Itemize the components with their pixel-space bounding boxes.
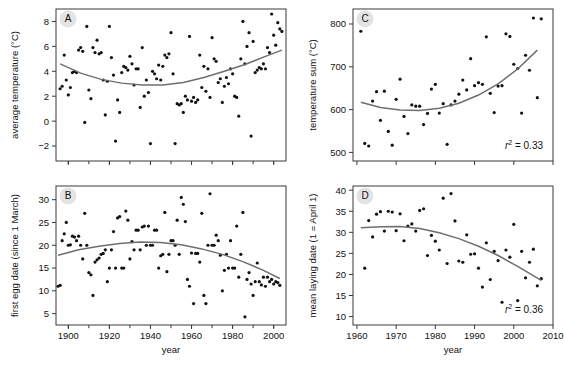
data-point xyxy=(91,46,94,49)
data-point xyxy=(200,212,203,215)
data-point xyxy=(184,95,187,98)
data-point xyxy=(180,102,183,105)
data-point xyxy=(161,65,164,68)
x-tick-label: 2000 xyxy=(263,330,284,341)
x-axis-title-b: year xyxy=(162,344,180,355)
data-point xyxy=(469,57,472,60)
data-point xyxy=(145,244,148,247)
data-point xyxy=(278,27,281,30)
data-point xyxy=(247,271,250,274)
data-point xyxy=(204,302,207,305)
data-point xyxy=(262,62,265,65)
data-point xyxy=(410,103,413,106)
data-point xyxy=(65,78,68,81)
panel-c: 500600700800Ctemperature sum (°C)r2 = 0.… xyxy=(307,9,553,165)
y-tick-label: 600 xyxy=(330,104,346,115)
data-point xyxy=(237,276,240,279)
data-point xyxy=(258,280,261,283)
figure-svg: −202468Aaverage temperature (°C)51015202… xyxy=(0,0,564,372)
data-point xyxy=(190,100,193,103)
data-point xyxy=(457,93,460,96)
data-point xyxy=(457,259,460,262)
data-point xyxy=(87,88,90,91)
data-point xyxy=(485,35,488,38)
data-point xyxy=(143,225,146,228)
data-point xyxy=(59,284,62,287)
y-tick-label: 15 xyxy=(38,262,49,273)
data-point xyxy=(418,209,421,212)
data-point xyxy=(233,266,236,269)
data-point xyxy=(85,244,88,247)
data-point xyxy=(169,31,172,34)
data-point xyxy=(126,219,129,222)
data-point xyxy=(130,62,133,65)
data-point xyxy=(402,115,405,118)
data-point xyxy=(221,289,224,292)
data-point xyxy=(171,239,174,242)
x-tick-label: 1990 xyxy=(464,330,485,341)
x-tick-label: 1940 xyxy=(140,330,161,341)
r2-value: = 0.33 xyxy=(512,140,543,151)
data-point xyxy=(108,266,111,269)
data-point xyxy=(254,71,257,74)
data-point xyxy=(243,315,246,318)
data-point xyxy=(153,72,156,75)
data-point xyxy=(359,30,362,33)
data-point xyxy=(215,60,218,63)
data-point xyxy=(221,101,224,104)
data-point xyxy=(398,212,401,215)
data-point xyxy=(61,239,64,242)
y-axis-title-b: first egg date (since 1 March) xyxy=(9,194,20,317)
data-point xyxy=(516,299,519,302)
data-point xyxy=(395,229,398,232)
data-point xyxy=(473,252,476,255)
data-point xyxy=(81,257,84,260)
data-point xyxy=(260,283,263,286)
data-point xyxy=(65,221,68,224)
data-point xyxy=(252,40,255,43)
data-point xyxy=(114,139,117,142)
data-point xyxy=(239,253,242,256)
r2-value: = 0.36 xyxy=(512,304,543,315)
data-point xyxy=(473,84,476,87)
data-point xyxy=(418,105,421,108)
data-point xyxy=(398,78,401,81)
data-point xyxy=(402,239,405,242)
y-tick-label: 500 xyxy=(330,147,346,158)
data-point xyxy=(438,111,441,114)
data-point xyxy=(249,134,252,137)
y-tick-label: 10 xyxy=(38,285,49,296)
data-point xyxy=(270,12,273,15)
data-point xyxy=(504,248,507,251)
data-point xyxy=(122,266,125,269)
data-point xyxy=(147,91,150,94)
data-point xyxy=(118,111,121,114)
panel-letter-d: D xyxy=(361,190,368,201)
figure-container: −202468Aaverage temperature (°C)51015202… xyxy=(0,0,564,372)
data-point xyxy=(387,210,390,213)
data-point xyxy=(120,71,123,74)
data-point xyxy=(532,248,535,251)
y-tick-label: 25 xyxy=(335,248,346,259)
data-point xyxy=(520,250,523,253)
data-point xyxy=(391,211,394,214)
data-point xyxy=(252,294,255,297)
data-point xyxy=(151,70,154,73)
data-point xyxy=(410,222,413,225)
data-point xyxy=(93,51,96,54)
y-axis-title-a: average temperature (°C) xyxy=(9,31,20,139)
y-tick-label: 35 xyxy=(335,206,346,217)
data-point xyxy=(438,248,441,251)
data-point xyxy=(202,65,205,68)
data-point xyxy=(469,253,472,256)
data-point xyxy=(489,278,492,281)
data-point xyxy=(512,63,515,66)
data-point xyxy=(163,54,166,57)
data-point xyxy=(204,90,207,93)
data-point xyxy=(155,229,158,232)
data-point xyxy=(453,99,456,102)
data-point xyxy=(241,211,244,214)
y-tick-label: 20 xyxy=(38,240,49,251)
data-point xyxy=(104,248,107,251)
data-point xyxy=(108,25,111,28)
